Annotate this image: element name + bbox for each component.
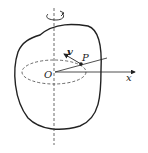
x-axis-label: x [126, 72, 132, 83]
body-outline [15, 25, 101, 130]
rotation-arrow-icon [47, 11, 64, 20]
velocity-label: v [67, 46, 73, 57]
origin-label: O [44, 69, 52, 80]
rigid-body-diagram: O P v x [0, 0, 148, 153]
point-label: P [81, 52, 89, 63]
